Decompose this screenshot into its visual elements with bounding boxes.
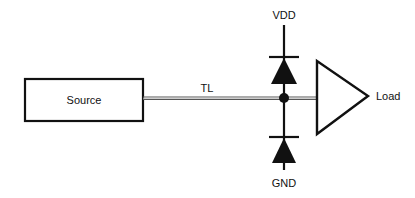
vdd-label: VDD [272, 9, 295, 21]
junction-dot [279, 93, 289, 103]
diode-gnd [269, 137, 299, 163]
schematic-canvas: Source TL Load VDD GND [0, 0, 415, 198]
buffer-triangle-icon [317, 61, 368, 134]
diode-vdd [269, 57, 299, 84]
tl-label: TL [201, 82, 214, 94]
diode-gnd-triangle-icon [272, 138, 296, 163]
load-label: Load [376, 90, 400, 102]
source-label: Source [67, 94, 102, 106]
load-buffer: Load [317, 61, 400, 134]
diode-vdd-triangle-icon [271, 58, 297, 84]
transmission-line: TL [143, 82, 316, 100]
gnd-label: GND [272, 177, 297, 189]
source-block: Source [25, 79, 143, 121]
